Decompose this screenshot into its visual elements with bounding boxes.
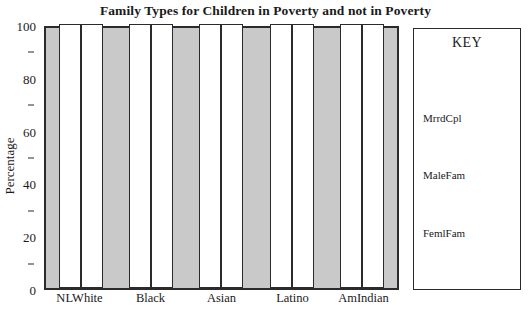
- y-minor-tick: [28, 105, 34, 106]
- x-tick-label: Black: [125, 292, 177, 312]
- y-minor-tick: [28, 263, 34, 264]
- bar[interactable]: [292, 24, 314, 288]
- bar-groups-container: [46, 28, 397, 288]
- y-tick-label: 40: [23, 178, 36, 191]
- legend-item: MrrdCpl: [419, 113, 462, 124]
- bar[interactable]: [129, 24, 151, 288]
- bar[interactable]: [81, 24, 103, 288]
- y-minor-tick: [28, 210, 34, 211]
- bar-group: [199, 28, 243, 288]
- legend-key-box: KEY MrrdCpl MaleFam FemlFam: [413, 28, 521, 290]
- legend-item-label: MaleFam: [423, 170, 465, 181]
- bar[interactable]: [362, 24, 384, 288]
- bar[interactable]: [340, 24, 362, 288]
- bar[interactable]: [59, 24, 81, 288]
- bar-group: [59, 28, 103, 288]
- legend-title: KEY: [414, 35, 520, 51]
- y-tick-label: 0: [30, 284, 37, 297]
- x-tick-label: Latino: [267, 292, 319, 312]
- bar-group: [129, 28, 173, 288]
- bar-group: [270, 28, 314, 288]
- bar[interactable]: [151, 24, 173, 288]
- y-tick-label: 20: [23, 231, 36, 244]
- bar[interactable]: [221, 24, 243, 288]
- plot-area: [44, 26, 399, 290]
- y-tick-label: 100: [17, 20, 37, 33]
- chart-title: Family Types for Children in Poverty and…: [0, 3, 531, 19]
- legend-item: FemlFam: [419, 228, 465, 239]
- x-tick-label: AmIndian: [338, 292, 390, 312]
- y-tick-label: 60: [23, 125, 36, 138]
- legend-item-label: FemlFam: [423, 228, 465, 239]
- legend-item-label: MrrdCpl: [423, 113, 462, 124]
- bar[interactable]: [199, 24, 221, 288]
- y-minor-tick: [28, 158, 34, 159]
- legend-item: MaleFam: [419, 170, 465, 181]
- bar-group: [340, 28, 384, 288]
- x-axis: NLWhiteBlackAsianLatinoAmIndian: [44, 292, 399, 312]
- y-tick-label: 80: [23, 72, 36, 85]
- y-axis: 020406080100: [0, 26, 42, 290]
- x-tick-label: NLWhite: [54, 292, 106, 312]
- x-tick-label: Asian: [196, 292, 248, 312]
- bar[interactable]: [270, 24, 292, 288]
- y-minor-tick: [28, 52, 34, 53]
